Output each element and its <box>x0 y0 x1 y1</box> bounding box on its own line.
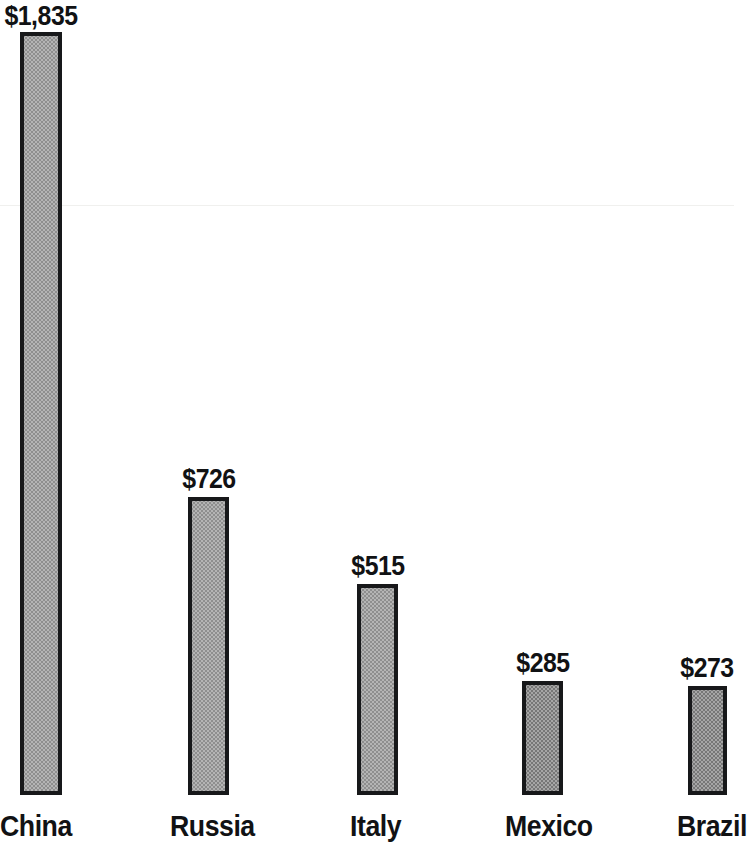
bar-category-label-china: China <box>0 812 72 841</box>
bar-value-label-mexico: $285 <box>503 650 584 677</box>
bar-mexico <box>522 681 563 795</box>
bar-brazil <box>688 686 727 795</box>
bar-category-label-mexico: Mexico <box>505 812 593 841</box>
bar-china <box>20 32 62 795</box>
bar-category-label-brazil: Brazil <box>677 812 747 841</box>
bar-category-label-russia: Russia <box>170 812 255 841</box>
bar-category-label-italy: Italy <box>350 812 401 841</box>
bar-value-label-italy: $515 <box>338 553 419 580</box>
bar-value-label-russia: $726 <box>169 466 250 493</box>
bar-russia <box>188 497 229 795</box>
bar-italy <box>357 584 398 795</box>
bar-value-label-china: $1,835 <box>0 3 83 30</box>
bar-value-label-brazil: $273 <box>667 655 747 682</box>
